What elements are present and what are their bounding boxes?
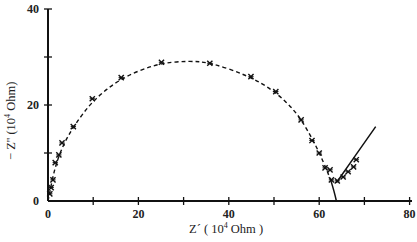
data-point-marker: [351, 164, 356, 169]
data-point-marker: [327, 167, 332, 172]
fit-line-solid: [336, 127, 375, 183]
svg-text:− Z'' (104 Ohm): − Z'' (104 Ohm): [3, 82, 18, 160]
x-tick-label: 0: [45, 207, 51, 221]
x-tick-label: 60: [313, 207, 325, 221]
x-tick-label: 80: [404, 207, 416, 221]
y-tick-labels: 02040: [27, 2, 39, 208]
data-point-marker: [53, 160, 58, 165]
data-series: [47, 60, 375, 201]
data-point-marker: [119, 75, 124, 80]
x-tick-labels: 020406080: [45, 207, 416, 221]
y-axis-title: − Z'' (104 Ohm): [3, 82, 18, 160]
y-tick-label: 0: [33, 194, 39, 208]
y-tick-label: 20: [27, 98, 39, 112]
fit-curve-dashed: [48, 61, 331, 201]
svg-text:Z´ ( 104 Ohm ): Z´ ( 104 Ohm ): [189, 221, 263, 236]
x-tick-label: 20: [132, 207, 144, 221]
x-axis-title: Z´ ( 104 Ohm ): [189, 221, 263, 236]
x-tick-label: 40: [223, 207, 235, 221]
data-point-marker: [346, 169, 351, 174]
nyquist-plot: 020406080 02040 Z´ ( 104 Ohm ) − Z'' (10…: [0, 0, 417, 242]
y-tick-label: 40: [27, 2, 39, 16]
